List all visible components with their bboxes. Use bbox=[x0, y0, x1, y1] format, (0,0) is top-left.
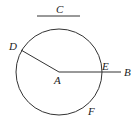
label-b: B bbox=[124, 66, 131, 78]
label-d: D bbox=[8, 40, 17, 52]
segment-ad bbox=[21, 50, 59, 72]
label-f: F bbox=[87, 105, 95, 117]
geometry-diagram: C D A E B F bbox=[0, 0, 137, 129]
label-e: E bbox=[101, 60, 109, 72]
label-a: A bbox=[53, 74, 61, 86]
label-c: C bbox=[56, 3, 64, 15]
